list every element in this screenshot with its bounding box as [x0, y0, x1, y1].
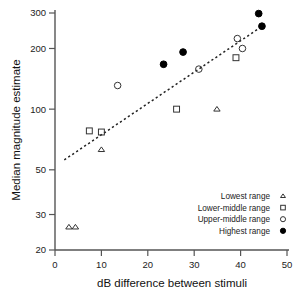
legend-label: Upper-middle range: [198, 215, 271, 224]
x-tick-label: 50: [282, 259, 293, 270]
open-triangle-icon: [281, 194, 286, 198]
open-circle-icon: [280, 217, 285, 222]
series-upper-middle-range: [114, 35, 245, 89]
plot-canvas: 203050100200300 01020304050 Lowest range…: [0, 0, 305, 291]
legend-label: Highest range: [219, 227, 270, 236]
x-axis-ticks: 01020304050: [52, 250, 292, 270]
y-tick-label: 300: [30, 7, 46, 18]
y-tick-label: 50: [35, 164, 46, 175]
x-tick-label: 10: [96, 259, 107, 270]
legend: Lowest rangeLower-middle rangeUpper-midd…: [198, 192, 286, 236]
y-tick-label: 20: [35, 244, 46, 255]
x-tick-label: 30: [189, 259, 200, 270]
x-tick-label: 20: [143, 259, 154, 270]
x-axis-title: dB difference between stimuli: [97, 277, 247, 289]
filled-circle-icon: [280, 228, 285, 233]
open-square-icon: [233, 55, 239, 61]
open-triangle-icon: [214, 106, 220, 111]
legend-label: Lowest range: [221, 192, 271, 201]
open-square-icon: [281, 205, 286, 210]
filled-circle-icon: [160, 61, 167, 68]
y-axis-ticks: 203050100200300: [30, 7, 55, 255]
regression-dashed-line: [64, 28, 259, 160]
open-triangle-icon: [72, 224, 78, 229]
open-circle-icon: [196, 66, 203, 73]
x-tick-label: 40: [235, 259, 246, 270]
open-circle-icon: [234, 35, 241, 42]
y-axis-title: Median magnitude estimate: [10, 59, 22, 200]
scatter-plot-figure: 203050100200300 01020304050 Lowest range…: [0, 0, 305, 291]
open-circle-icon: [114, 82, 121, 89]
open-triangle-icon: [66, 224, 72, 229]
y-tick-label: 200: [30, 43, 46, 54]
filled-circle-icon: [180, 49, 187, 56]
trend-line: [64, 28, 259, 160]
filled-circle-icon: [259, 23, 266, 30]
open-circle-icon: [239, 45, 246, 52]
open-square-icon: [86, 128, 92, 134]
legend-label: Lower-middle range: [198, 204, 271, 213]
open-square-icon: [174, 106, 180, 112]
x-tick-label: 0: [52, 259, 57, 270]
y-tick-label: 30: [35, 209, 46, 220]
filled-circle-icon: [255, 10, 262, 17]
y-tick-label: 100: [30, 104, 46, 115]
open-triangle-icon: [98, 147, 104, 152]
